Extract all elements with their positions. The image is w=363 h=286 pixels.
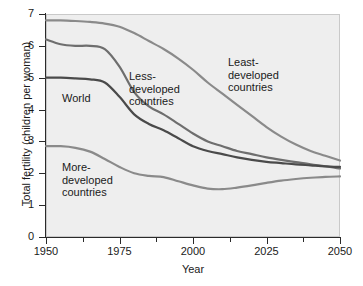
curve-label-more-developed-countries: More- developed countries [62, 161, 113, 199]
series-lines [46, 14, 340, 237]
y-tick-2 [39, 173, 46, 174]
y-tick-0 [39, 237, 46, 238]
y-tick-7 [39, 14, 46, 15]
x-minor-tick [156, 238, 157, 242]
x-tick-2025 [267, 238, 268, 244]
fertility-line-chart: 01234567 19501975200020252050 Least- dev… [0, 0, 363, 286]
x-minor-tick [303, 238, 304, 242]
x-tick-label-2000: 2000 [173, 245, 213, 257]
curve-label-world: World [62, 92, 91, 105]
y-tick-label-0: 0 [8, 231, 34, 242]
x-tick-1950 [46, 238, 47, 244]
y-axis-title: Total fertility (children per woman) [20, 24, 32, 224]
x-tick-label-2025: 2025 [247, 245, 287, 257]
x-tick-label-1950: 1950 [26, 245, 66, 257]
y-tick-6 [39, 46, 46, 47]
x-tick-label-2050: 2050 [320, 245, 360, 257]
y-tick-1 [39, 205, 46, 206]
x-minor-tick [83, 238, 84, 242]
x-tick-2000 [193, 238, 194, 244]
x-tick-1975 [120, 238, 121, 244]
x-tick-2050 [340, 238, 341, 244]
x-minor-tick [230, 238, 231, 242]
x-tick-label-1975: 1975 [100, 245, 140, 257]
x-axis-title: Year [46, 263, 340, 275]
curve-label-least-developed-countries: Least- developed countries [228, 56, 279, 94]
y-tick-4 [39, 110, 46, 111]
curve-label-less-developed-countries: Less- developed countries [129, 70, 180, 108]
series-line-least-developed-countries [46, 20, 340, 160]
y-tick-label-7: 7 [8, 8, 34, 19]
y-tick-3 [39, 141, 46, 142]
